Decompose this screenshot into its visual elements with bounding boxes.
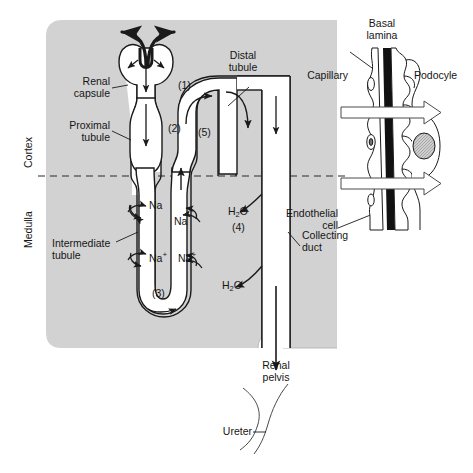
label-h2o-upper: H2O bbox=[228, 206, 248, 219]
label-podocyte: Podocyle bbox=[414, 70, 457, 82]
label-capillary: Capillary bbox=[286, 70, 348, 82]
label-basal-lamina: Basal lamina bbox=[352, 18, 412, 41]
label-na-plus-left-lower: Na+ bbox=[149, 249, 167, 264]
callout-2: (2) bbox=[168, 123, 181, 135]
ureter-outline bbox=[240, 384, 288, 454]
nephron-diagram: Cortex Medulla Renal capsule Proximal tu… bbox=[0, 0, 473, 473]
callout-5: (5) bbox=[198, 127, 211, 139]
callout-4: (4) bbox=[232, 222, 245, 234]
label-renal-pelvis: Renal pelvis bbox=[248, 360, 304, 383]
label-ureter: Ureter bbox=[188, 426, 252, 438]
label-endothelial-cell: Endothelial cell bbox=[268, 208, 338, 231]
label-na-right-upper: Na bbox=[174, 216, 187, 228]
callout-1: (1) bbox=[178, 80, 191, 92]
label-na-left-upper: Na bbox=[149, 200, 162, 212]
label-na-plus-right-lower: Na+ bbox=[178, 249, 196, 264]
label-proximal-tubule: Proximal tubule bbox=[40, 120, 110, 143]
label-intermediate-tubule: Intermediate tubule bbox=[52, 238, 124, 261]
zone-label-cortex: Cortex bbox=[22, 137, 34, 168]
label-collecting-duct: Collecting duct bbox=[302, 230, 366, 253]
label-renal-capsule: Renal capsule bbox=[44, 76, 110, 99]
label-h2o-lower: H2O bbox=[222, 280, 242, 293]
callout-3: (3) bbox=[152, 288, 165, 300]
label-distal-tubule: Distal tubule bbox=[216, 50, 270, 73]
zone-label-medulla: Medulla bbox=[22, 211, 34, 248]
